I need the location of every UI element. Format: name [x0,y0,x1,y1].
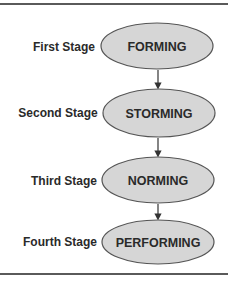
node-storming: STORMING [103,89,215,137]
node-norming-text: NORMING [128,174,188,188]
flow-diagram: FORMING STORMING NORMING PERFORMING [0,0,228,283]
node-performing-text: PERFORMING [116,236,201,250]
node-storming-text: STORMING [125,107,192,121]
node-forming-text: FORMING [127,40,186,54]
node-norming: NORMING [102,157,214,203]
node-forming: FORMING [101,23,213,69]
node-performing: PERFORMING [102,220,214,264]
